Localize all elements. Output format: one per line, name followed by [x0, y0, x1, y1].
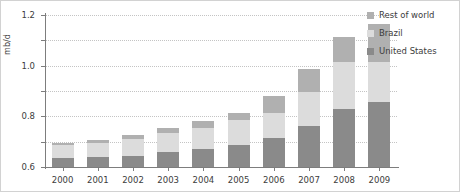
- bar-group[interactable]: [192, 121, 214, 167]
- y-tick-mark: 0.4: [41, 116, 45, 117]
- bar-segment[interactable]: [87, 140, 109, 143]
- x-tick-label: 2001: [87, 175, 109, 185]
- x-tick-label: 2009: [369, 175, 391, 185]
- x-tick-label: 2004: [193, 175, 215, 185]
- legend-item[interactable]: Rest of world: [367, 7, 453, 23]
- bar-segment[interactable]: [298, 92, 320, 126]
- bar-segment[interactable]: [52, 143, 74, 146]
- bar-segment[interactable]: [368, 102, 390, 167]
- bar-group[interactable]: [298, 69, 320, 167]
- x-tick-label: 2003: [157, 175, 179, 185]
- bar-segment[interactable]: [298, 69, 320, 92]
- y-tick-mark: 1.2: [41, 15, 45, 16]
- x-tick-label: 2000: [52, 175, 74, 185]
- x-tick-label: 2006: [263, 175, 285, 185]
- y-tick-label: 0.6: [21, 162, 35, 172]
- x-tick-label: 2007: [298, 175, 320, 185]
- bar-segment[interactable]: [157, 133, 179, 152]
- bar-segment[interactable]: [333, 62, 355, 109]
- x-tick-mark: [168, 167, 169, 171]
- bar-group[interactable]: [87, 140, 109, 167]
- bar-segment[interactable]: [122, 156, 144, 167]
- bar-group[interactable]: [52, 143, 74, 167]
- bar-segment[interactable]: [298, 126, 320, 167]
- legend-label: United States: [379, 46, 437, 56]
- bar-segment[interactable]: [122, 139, 144, 155]
- legend-label: Brazil: [379, 28, 403, 38]
- y-tick-label: 0.8: [21, 111, 35, 121]
- x-tick-mark: [98, 167, 99, 171]
- bar-segment[interactable]: [333, 37, 355, 62]
- bar-segment[interactable]: [368, 62, 390, 103]
- x-tick-mark: [309, 167, 310, 171]
- x-tick-mark: [239, 167, 240, 171]
- gridline: [46, 15, 397, 16]
- x-tick-mark: [274, 167, 275, 171]
- x-tick-mark: [344, 167, 345, 171]
- bar-segment[interactable]: [192, 121, 214, 127]
- bar-segment[interactable]: [192, 128, 214, 150]
- bar-segment[interactable]: [228, 113, 250, 121]
- bar-group[interactable]: [157, 128, 179, 167]
- y-tick-mark: 0.8: [41, 66, 45, 67]
- bar-segment[interactable]: [263, 113, 285, 138]
- legend-item[interactable]: United States: [367, 43, 453, 59]
- bar-segment[interactable]: [157, 128, 179, 133]
- y-tick-mark: 0.2: [41, 142, 45, 143]
- x-tick-label: 2002: [122, 175, 144, 185]
- x-tick-mark: [379, 167, 380, 171]
- bar-group[interactable]: [122, 135, 144, 167]
- bar-segment[interactable]: [228, 145, 250, 167]
- y-tick-label: 1.0: [21, 61, 35, 71]
- bar-segment[interactable]: [87, 157, 109, 167]
- legend-label: Rest of world: [379, 10, 435, 20]
- bar-segment[interactable]: [263, 96, 285, 112]
- stacked-bar-chart: mb/d 00.20.40.60.81.01.2 200020012002200…: [0, 0, 460, 192]
- bar-group[interactable]: [228, 113, 250, 167]
- bar-segment[interactable]: [263, 138, 285, 167]
- bar-group[interactable]: [263, 96, 285, 167]
- bar-segment[interactable]: [52, 145, 74, 158]
- x-tick-mark: [63, 167, 64, 171]
- bar-segment[interactable]: [122, 135, 144, 139]
- legend-swatch-icon: [367, 12, 374, 19]
- y-tick-mark: 1.0: [41, 40, 45, 41]
- bar-segment[interactable]: [52, 158, 74, 167]
- y-axis-title-label: mb/d: [3, 43, 12, 55]
- x-tick-label: 2005: [228, 175, 250, 185]
- plot-area: 00.20.40.60.81.01.2 20002001200220032004…: [45, 15, 397, 167]
- bar-segment[interactable]: [157, 152, 179, 167]
- y-tick-mark: 0.6: [41, 91, 45, 92]
- x-tick-mark: [133, 167, 134, 171]
- y-tick-label: 1.2: [21, 10, 35, 20]
- x-tick-mark: [203, 167, 204, 171]
- x-tick-label: 2008: [333, 175, 355, 185]
- legend-swatch-icon: [367, 30, 374, 37]
- bar-segment[interactable]: [87, 143, 109, 157]
- chart-legend: Rest of worldBrazilUnited States: [367, 7, 453, 61]
- bar-segment[interactable]: [228, 120, 250, 145]
- bar-segment[interactable]: [333, 109, 355, 167]
- bar-segment[interactable]: [192, 149, 214, 167]
- legend-swatch-icon: [367, 48, 374, 55]
- y-tick-mark: 0: [41, 167, 45, 168]
- bar-group[interactable]: [333, 37, 355, 167]
- legend-item[interactable]: Brazil: [367, 25, 453, 41]
